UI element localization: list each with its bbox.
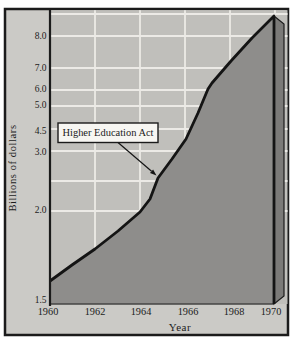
x-tick-label: 1960 <box>38 306 59 317</box>
x-tick-label: 1970 <box>261 306 282 317</box>
y-axis-title: Billions of dollars <box>7 124 18 211</box>
y-tick-label: 1.5 <box>35 295 47 305</box>
area-side-panel <box>274 16 284 304</box>
area-chart: 8.07.06.05.04.53.02.01.51960196219641966… <box>0 0 294 349</box>
y-tick-label: 6.0 <box>35 84 47 94</box>
y-tick-label: 3.0 <box>35 147 47 157</box>
annotation-label: Higher Education Act <box>63 128 154 138</box>
y-tick-label: 8.0 <box>35 31 47 41</box>
x-axis-title: Year <box>169 321 191 333</box>
x-tick-label: 1964 <box>131 306 152 317</box>
x-tick-label: 1966 <box>178 306 199 317</box>
y-tick-label: 7.0 <box>35 63 47 73</box>
x-tick-label: 1968 <box>224 306 245 317</box>
y-tick-label: 5.0 <box>35 100 47 110</box>
figure-container: 8.07.06.05.04.53.02.01.51960196219641966… <box>0 0 294 349</box>
y-tick-label: 2.0 <box>35 205 47 215</box>
y-tick-label: 4.5 <box>35 126 47 136</box>
x-tick-label: 1962 <box>85 306 106 317</box>
